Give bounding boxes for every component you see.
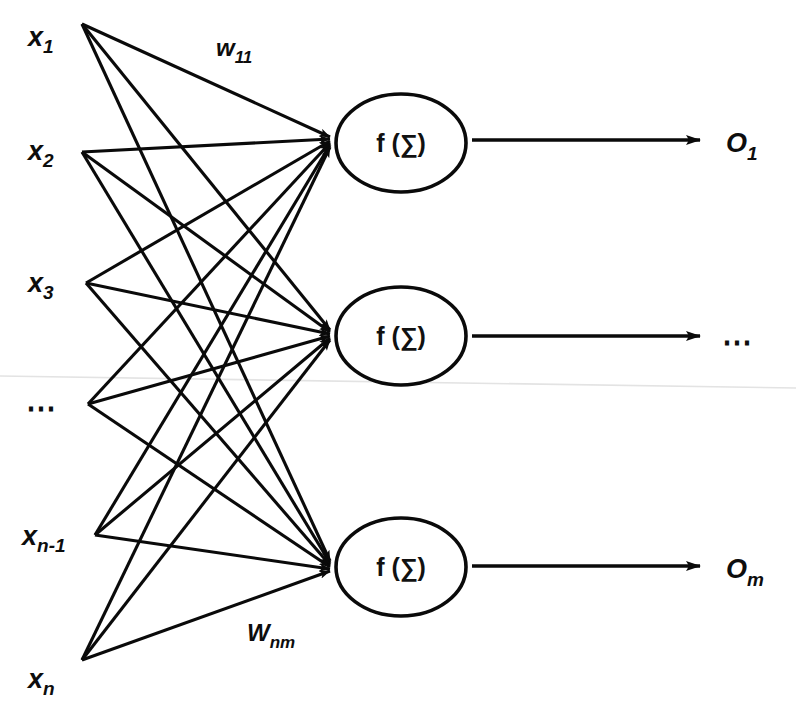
input-label-group: x1 x2 x3 ⋯ xn-1 xn	[20, 22, 66, 699]
input-label-xn: xn	[26, 664, 55, 699]
edge-x3-n1	[86, 141, 330, 283]
neural-network-diagram: f (∑) f (∑) f (∑) x1 x2 x3 ⋯ xn-	[0, 0, 796, 705]
neuron-2-label: f (∑)	[376, 322, 426, 351]
input-label-xn-1: xn-1	[20, 521, 66, 556]
output-label-ellipsis: ⋯	[722, 325, 754, 358]
input-label-x2: x2	[26, 136, 54, 171]
output-arrow-group	[472, 140, 700, 566]
edge-x1-n1	[82, 24, 330, 137]
edge-x2-n1	[82, 139, 330, 152]
edge-xn1-n3	[95, 535, 330, 569]
edge-x1-n3	[82, 24, 330, 561]
edge-group	[82, 24, 330, 660]
neuron-1-label: f (∑)	[376, 129, 426, 158]
weight-label-wnm: Wnm	[247, 619, 295, 652]
network-canvas: f (∑) f (∑) f (∑) x1 x2 x3 ⋯ xn-	[0, 0, 796, 705]
output-label-om: Om	[726, 554, 764, 590]
output-label-group: O1 ⋯ Om	[722, 128, 764, 590]
input-label-ellipsis: ⋯	[26, 391, 58, 424]
input-label-x3: x3	[26, 268, 54, 303]
neuron-group: f (∑) f (∑) f (∑)	[336, 94, 466, 616]
input-label-x1: x1	[26, 22, 54, 57]
weight-label-w11: w11	[216, 34, 252, 67]
edge-x1-n2	[82, 24, 330, 330]
neuron-3-label: f (∑)	[376, 553, 426, 582]
output-label-o1: O1	[726, 128, 758, 164]
edge-xn1-n1	[95, 145, 330, 535]
